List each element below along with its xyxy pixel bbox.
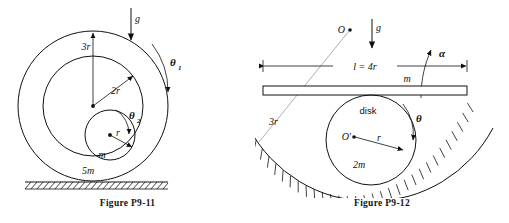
gravity-label-right: g bbox=[376, 22, 381, 33]
label-r-inner: r bbox=[116, 127, 120, 138]
gravity-label-left: g bbox=[135, 13, 140, 24]
label-disk-name: disk bbox=[360, 105, 377, 116]
label-alpha: α bbox=[439, 47, 446, 59]
curved-surface bbox=[255, 103, 493, 198]
label-outer-mass: 5m bbox=[82, 165, 94, 176]
label-2r: 2r bbox=[111, 85, 120, 96]
curved-surface-arc bbox=[255, 128, 493, 198]
hoop-center-dot bbox=[91, 104, 95, 108]
figure-p9-12-caption: Figure P9-12 bbox=[255, 198, 509, 208]
figure-p9-12-drawing: g O 3r l = 4r m α bbox=[255, 0, 509, 198]
label-bar-length: l = 4r bbox=[353, 61, 377, 72]
figure-p9-11-caption: Figure P9-11 bbox=[0, 198, 255, 208]
figure-p9-11: g 3r 2r r bbox=[0, 0, 255, 223]
label-O-prime: O' bbox=[342, 131, 352, 142]
label-disk-mass: 2m bbox=[353, 159, 365, 170]
label-theta-right: θ bbox=[416, 112, 422, 124]
ground-hatching bbox=[25, 182, 168, 189]
curved-surface-hatching bbox=[255, 103, 473, 198]
label-O-center: O bbox=[338, 24, 345, 35]
label-theta1: θ bbox=[170, 56, 176, 68]
bar-rectangle bbox=[263, 86, 467, 95]
label-disk-radius: r bbox=[377, 132, 381, 143]
theta1-arc-arrow bbox=[152, 44, 168, 92]
label-3r: 3r bbox=[81, 41, 91, 52]
ground-surface bbox=[25, 182, 168, 189]
figure-p9-11-drawing: g 3r 2r r bbox=[0, 0, 255, 198]
figure-page: g 3r 2r r bbox=[0, 0, 509, 223]
label-theta2-subscript: 2 bbox=[136, 117, 141, 125]
disk-center-dot bbox=[108, 133, 112, 137]
label-bar-mass: m bbox=[403, 73, 410, 84]
label-theta1-subscript: 1 bbox=[178, 64, 182, 72]
label-inner-mass: m bbox=[98, 149, 105, 160]
label-3r-surface: 3r bbox=[268, 116, 278, 127]
figure-p9-12: g O 3r l = 4r m α bbox=[255, 0, 509, 223]
label-theta2: θ bbox=[129, 109, 135, 121]
